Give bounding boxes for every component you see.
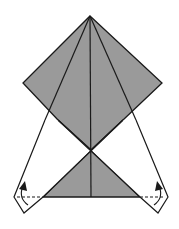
origami-diagram xyxy=(0,0,179,229)
